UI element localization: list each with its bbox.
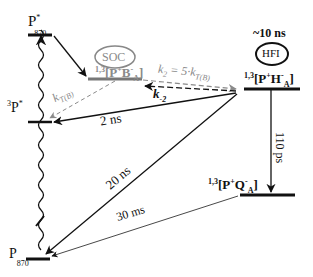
arrow-p-to-pb xyxy=(54,36,86,76)
label-hfi-time: ~10 ns xyxy=(253,27,286,39)
label-p870-ground: P870 xyxy=(9,247,29,261)
label-pb: 1,3[P+B-A] xyxy=(95,66,143,79)
label-k-minus2: k-2 xyxy=(153,87,166,100)
label-soc: SOC xyxy=(102,51,125,63)
diagram-canvas xyxy=(0,0,313,277)
arrow-20ns xyxy=(46,94,237,254)
label-triplet: 3P* xyxy=(7,101,23,115)
label-110ps: 110 ps xyxy=(274,132,286,163)
label-hfi: HFI xyxy=(262,48,280,59)
break-mark xyxy=(36,216,44,226)
label-p870-excited: P*870 xyxy=(28,14,52,29)
label-ph: 1,3[P+H-A] xyxy=(244,72,294,85)
label-pq: 1,3[P+Q-A] xyxy=(208,178,258,191)
label-2ns: 2 ns xyxy=(99,111,122,127)
